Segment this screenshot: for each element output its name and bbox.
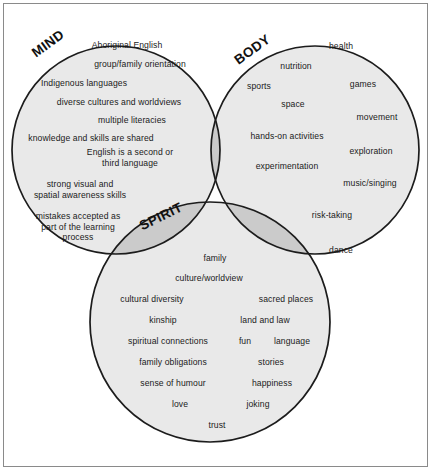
venn-diagram [0,0,433,473]
